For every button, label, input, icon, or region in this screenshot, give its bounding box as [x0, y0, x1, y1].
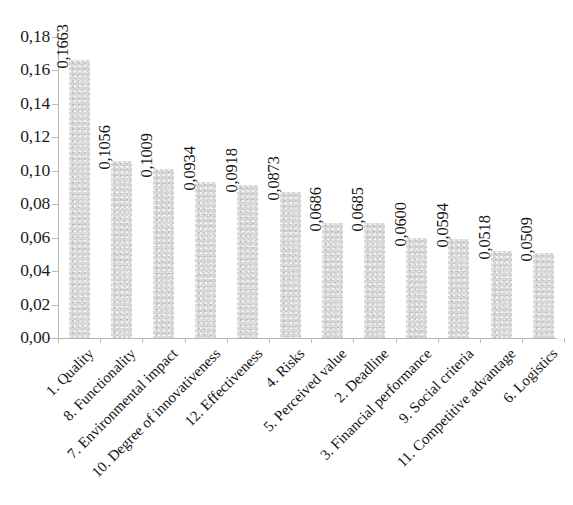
y-axis-tick-label: 0,04 — [4, 262, 50, 280]
y-axis-tick-label: 0,08 — [4, 195, 50, 213]
y-axis-tick-label: 0,16 — [4, 61, 50, 79]
y-axis-tick-label: 0,00 — [4, 329, 50, 347]
x-axis-tick-mark — [58, 338, 59, 343]
y-axis-tick-label: 0,10 — [4, 162, 50, 180]
bar-value-label: 0,1009 — [139, 134, 156, 178]
x-axis-category-label-text: 9. Social criteria — [396, 346, 476, 426]
y-axis-tick-label: 0,12 — [4, 128, 50, 146]
bar-value-label: 0,0685 — [350, 188, 367, 232]
y-axis-tick-label: 0,18 — [4, 28, 50, 46]
y-axis-tick-label: 0,06 — [4, 229, 50, 247]
bar-value-label: 0,0600 — [392, 202, 409, 246]
bar-value-label: 0,0918 — [223, 149, 240, 193]
bar-chart: 0,000,020,040,060,080,100,120,140,160,18… — [0, 0, 573, 505]
bar-value-label: 0,0686 — [308, 188, 325, 232]
bar-value-label: 0,1663 — [55, 24, 72, 68]
bar-value-label: 0,1056 — [97, 126, 114, 170]
y-axis-tick-label: 0,02 — [4, 296, 50, 314]
bar-value-label: 0,0518 — [477, 216, 494, 260]
bar-value-label: 0,0594 — [434, 203, 451, 247]
bar-value-label: 0,0934 — [181, 146, 198, 190]
bar-value-label: 0,0873 — [266, 156, 283, 200]
y-axis-tick-label: 0,14 — [4, 95, 50, 113]
bar — [69, 60, 90, 338]
x-axis-category-label-text: 12. Effectiveness — [182, 346, 265, 429]
